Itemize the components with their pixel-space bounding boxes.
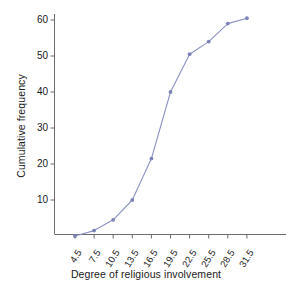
- cumulative-frequency-chart: Cumulative frequency Degree of religious…: [0, 0, 292, 287]
- y-tick-label: 20: [26, 158, 48, 169]
- x-axis-ticks: [75, 235, 247, 239]
- data-point: [73, 234, 77, 238]
- y-axis-ticks: [51, 20, 55, 200]
- data-point: [188, 52, 192, 56]
- data-point: [111, 218, 115, 222]
- axes: [55, 14, 287, 235]
- data-point: [169, 90, 173, 94]
- data-point: [207, 40, 211, 44]
- data-point: [92, 229, 96, 233]
- y-tick-label: 30: [26, 122, 48, 133]
- y-tick-label: 60: [26, 14, 48, 25]
- y-tick-label: 40: [26, 86, 48, 97]
- y-tick-label: 10: [26, 194, 48, 205]
- data-point: [245, 16, 249, 20]
- data-point: [130, 198, 134, 202]
- plot-area: [0, 0, 292, 287]
- data-point: [150, 157, 154, 161]
- data-point: [226, 22, 230, 26]
- y-tick-label: 50: [26, 50, 48, 61]
- data-line: [75, 18, 247, 236]
